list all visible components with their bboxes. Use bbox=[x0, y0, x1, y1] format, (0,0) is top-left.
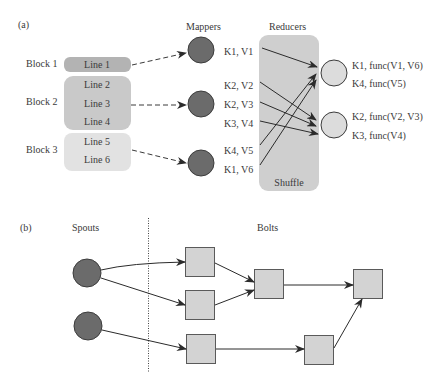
line-6: Line 6 bbox=[84, 154, 110, 165]
reduce-out-k4: K4, func(V5) bbox=[352, 78, 406, 90]
bolt-node-2 bbox=[186, 291, 215, 320]
reducer-node-2 bbox=[321, 112, 347, 138]
line-1: Line 1 bbox=[84, 59, 110, 70]
line-4: Line 4 bbox=[84, 116, 110, 127]
block-1-label: Block 1 bbox=[26, 58, 57, 69]
block-2-label: Block 2 bbox=[26, 96, 57, 107]
panel-b-label: (b) bbox=[20, 222, 32, 234]
reduce-out-k1: K1, func(V1, V6) bbox=[352, 60, 423, 72]
reducers-header: Reducers bbox=[269, 21, 306, 32]
mapreduce-storm-diagram: (a) Mappers Reducers Block 1 Block 2 Blo… bbox=[0, 0, 439, 391]
bolt-node-3 bbox=[255, 270, 284, 299]
kv-k1-v6: K1, V6 bbox=[224, 164, 253, 175]
line-3: Line 3 bbox=[84, 98, 110, 109]
shuffle-box bbox=[259, 35, 319, 191]
spout-node-1 bbox=[73, 259, 101, 287]
kv-k1-v1: K1, V1 bbox=[224, 46, 253, 57]
mapper-node-2 bbox=[188, 91, 214, 117]
kv-k3-v4: K3, V4 bbox=[224, 118, 253, 129]
reduce-out-k3: K3, func(V4) bbox=[352, 130, 406, 142]
mapper-node-3 bbox=[188, 150, 214, 176]
bolt-node-1 bbox=[186, 248, 215, 277]
dashed-arrow-block3 bbox=[132, 150, 186, 163]
reducer-node-1 bbox=[321, 60, 347, 86]
dashed-arrow-block1 bbox=[132, 53, 186, 65]
line-2: Line 2 bbox=[84, 79, 110, 90]
kv-k4-v5: K4, V5 bbox=[224, 145, 253, 156]
bolts-header: Bolts bbox=[257, 222, 278, 233]
bolt-node-5 bbox=[187, 335, 216, 364]
shuffle-label: Shuffle bbox=[274, 177, 304, 188]
mapper-node-1 bbox=[188, 37, 214, 63]
bolt-node-6 bbox=[305, 336, 334, 365]
mappers-header: Mappers bbox=[186, 21, 221, 32]
bolt-node-4 bbox=[354, 270, 383, 299]
kv-k2-v3: K2, V3 bbox=[224, 99, 253, 110]
line-5: Line 5 bbox=[84, 136, 110, 147]
spouts-header: Spouts bbox=[72, 222, 99, 233]
reduce-out-k2: K2, func(V2, V3) bbox=[352, 111, 423, 123]
spout-node-2 bbox=[74, 312, 102, 340]
kv-k2-v2: K2, V2 bbox=[224, 80, 253, 91]
panel-a-label: (a) bbox=[18, 19, 29, 31]
block-3-label: Block 3 bbox=[26, 144, 57, 155]
